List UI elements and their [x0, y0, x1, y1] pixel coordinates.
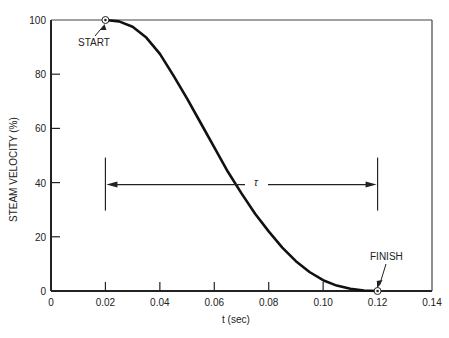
annotations: START FINISH τ t (sec) STEAM VELOCITY (%… [8, 17, 403, 326]
chart-canvas: 00.020.040.060.080.100.120.1402040608010… [0, 0, 449, 338]
y-tick-label: 80 [35, 69, 47, 80]
start-dot [104, 19, 107, 22]
y-tick-label: 60 [35, 123, 47, 134]
x-tick-label: 0.12 [368, 297, 388, 308]
velocity-curve [105, 20, 377, 291]
x-axis-label: t (sec) [222, 314, 250, 325]
chart-figure: 00.020.040.060.080.100.120.1402040608010… [0, 0, 449, 338]
start-arrowhead [100, 24, 106, 30]
y-tick-label: 40 [35, 178, 47, 189]
x-tick-label: 0.04 [150, 297, 170, 308]
x-tick-label: 0.14 [422, 297, 442, 308]
finish-label: FINISH [370, 251, 403, 262]
finish-dot [376, 290, 379, 293]
ticks: 00.020.040.060.080.100.120.1402040608010… [29, 15, 442, 308]
start-label: START [78, 37, 110, 48]
x-tick-label: 0.06 [205, 297, 225, 308]
velocity-line [105, 20, 377, 291]
y-tick-label: 100 [29, 15, 46, 26]
x-tick-label: 0.10 [313, 297, 333, 308]
y-axis-label: STEAM VELOCITY (%) [8, 117, 19, 222]
tau-left-arrowhead [106, 182, 117, 188]
y-tick-label: 20 [35, 232, 47, 243]
y-tick-label: 0 [40, 286, 46, 297]
tau-label: τ [254, 177, 259, 188]
x-tick-label: 0.08 [259, 297, 279, 308]
x-tick-label: 0 [48, 297, 54, 308]
tau-right-arrowhead [366, 182, 377, 188]
x-tick-label: 0.02 [96, 297, 116, 308]
